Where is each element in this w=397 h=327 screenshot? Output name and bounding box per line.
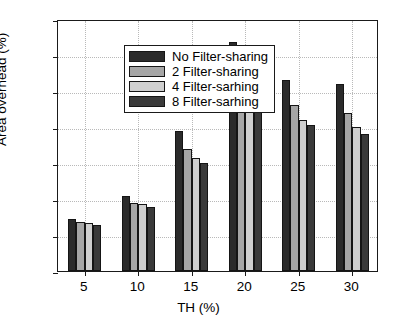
- gridline-y-6: [58, 165, 377, 166]
- legend-item-label: No Filter-sharing: [172, 50, 268, 63]
- bar: [336, 84, 344, 271]
- legend-swatch-icon: [129, 81, 165, 92]
- bar: [147, 207, 155, 271]
- y-tick-14: [53, 21, 58, 22]
- gridline-y-4: [58, 201, 377, 202]
- x-tick-label-5: 5: [80, 279, 88, 294]
- bar: [85, 223, 93, 271]
- x-tick-label-25: 25: [290, 279, 305, 294]
- bar: [130, 203, 138, 271]
- legend-swatch-icon: [129, 96, 165, 107]
- y-tick-10: [53, 93, 58, 94]
- bar: [192, 158, 200, 271]
- legend-item-label: 8 Filter-sarhing: [172, 95, 259, 108]
- bar: [138, 204, 146, 271]
- chart-legend: No Filter-sharing2 Filter-sharing4 Filte…: [124, 45, 275, 113]
- x-tick-label-30: 30: [344, 279, 359, 294]
- plot-area: No Filter-sharing2 Filter-sharing4 Filte…: [57, 20, 378, 272]
- y-tick-8: [53, 129, 58, 130]
- bar: [344, 113, 352, 271]
- x-tick-label-15: 15: [183, 279, 198, 294]
- bar: [254, 102, 262, 271]
- x-axis-title: TH (%): [0, 300, 397, 315]
- y-tick-4: [53, 201, 58, 202]
- y-tick-12: [53, 57, 58, 58]
- x-tick-15: [192, 271, 193, 276]
- legend-item: 2 Filter-sharing: [129, 64, 268, 79]
- legend-item-label: 2 Filter-sharing: [172, 65, 259, 78]
- bar: [352, 127, 360, 271]
- bar: [361, 134, 369, 271]
- x-tick-label-20: 20: [237, 279, 252, 294]
- legend-swatch-icon: [129, 51, 165, 62]
- bar: [245, 93, 253, 271]
- y-axis-title: Area overhead (%): [0, 33, 9, 146]
- bar: [290, 105, 298, 271]
- y-tick-0: [53, 273, 58, 274]
- bar: [200, 163, 208, 271]
- legend-item: 4 Filter-sarhing: [129, 79, 268, 94]
- x-tick-label-10: 10: [130, 279, 145, 294]
- bar: [93, 225, 101, 271]
- bar: [282, 80, 290, 271]
- bar: [76, 222, 84, 272]
- x-tick-25: [299, 271, 300, 276]
- y-tick-6: [53, 165, 58, 166]
- x-tick-5: [85, 271, 86, 276]
- bar: [122, 196, 130, 271]
- bar-chart-figure: No Filter-sharing2 Filter-sharing4 Filte…: [0, 0, 397, 327]
- legend-swatch-icon: [129, 66, 165, 77]
- x-tick-20: [245, 271, 246, 276]
- bar: [299, 120, 307, 271]
- x-tick-10: [138, 271, 139, 276]
- bar: [183, 149, 191, 271]
- legend-item: 8 Filter-sarhing: [129, 94, 268, 109]
- y-tick-2: [53, 237, 58, 238]
- gridline-y-8: [58, 129, 377, 130]
- bar: [307, 125, 315, 271]
- legend-item: No Filter-sharing: [129, 49, 268, 64]
- bar: [68, 219, 76, 271]
- bar: [175, 131, 183, 271]
- x-tick-30: [352, 271, 353, 276]
- legend-item-label: 4 Filter-sarhing: [172, 80, 259, 93]
- gridline-y-2: [58, 237, 377, 238]
